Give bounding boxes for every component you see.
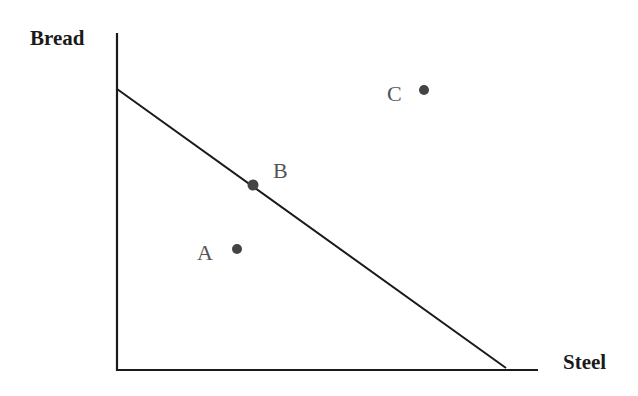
point-b	[248, 180, 259, 191]
x-axis-label: Steel	[563, 350, 606, 375]
ppf-diagram	[0, 0, 638, 396]
point-a-label: A	[197, 240, 213, 266]
point-b-label: B	[273, 158, 288, 184]
point-c	[419, 85, 429, 95]
point-c-label: C	[387, 81, 402, 107]
point-a	[232, 244, 242, 254]
production-possibilities-frontier	[117, 89, 506, 368]
y-axis-label: Bread	[30, 26, 84, 51]
